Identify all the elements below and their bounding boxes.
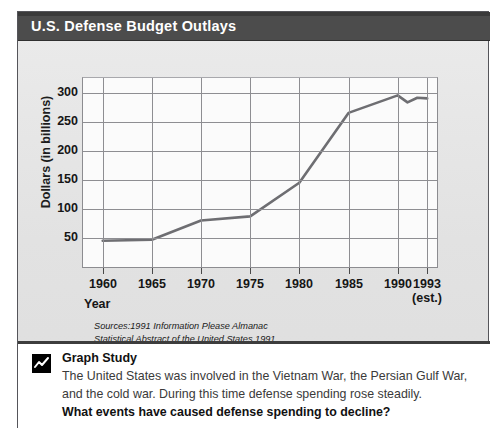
gridline-vertical bbox=[103, 78, 104, 267]
caption-question: What events have caused defense spending… bbox=[62, 405, 474, 419]
caption-body: The United States was involved in the Vi… bbox=[62, 368, 474, 403]
plot-area bbox=[82, 77, 438, 268]
sources-line-1: Sources:1991 Information Please Almanac bbox=[94, 320, 275, 333]
gridline-horizontal bbox=[83, 151, 437, 152]
x-tick-mark bbox=[398, 268, 399, 274]
x-tick-mark bbox=[299, 268, 300, 274]
gridline-vertical bbox=[299, 78, 300, 267]
page-title: U.S. Defense Budget Outlays bbox=[31, 18, 236, 34]
page-root: U.S. Defense Budget Outlays Dollars (in … bbox=[0, 0, 503, 437]
y-tick-label: 100 bbox=[44, 201, 78, 215]
gridline-horizontal bbox=[83, 180, 437, 181]
gridline-vertical bbox=[152, 78, 153, 267]
gridline-horizontal bbox=[83, 93, 437, 94]
graph-study-caption: Graph Study The United States was involv… bbox=[18, 344, 490, 429]
y-tick-label: 50 bbox=[44, 230, 78, 244]
x-tick-mark bbox=[201, 268, 202, 274]
y-tick-label: 300 bbox=[44, 85, 78, 99]
line-chart-icon bbox=[32, 354, 51, 373]
y-axis-tick-labels: 50100150200250300 bbox=[38, 77, 78, 268]
x-tick-mark bbox=[250, 268, 251, 274]
gridline-vertical bbox=[427, 78, 428, 267]
chart-region: Dollars (in billions) 50100150200250300 … bbox=[18, 41, 490, 341]
gridline-vertical bbox=[250, 78, 251, 267]
x-axis-tick-marks bbox=[82, 268, 438, 275]
gridline-horizontal bbox=[83, 238, 437, 239]
caption-heading: Graph Study bbox=[62, 351, 137, 365]
x-tick-mark bbox=[152, 268, 153, 274]
x-axis-title: Year bbox=[84, 297, 110, 311]
gridline-vertical bbox=[398, 78, 399, 267]
x-axis-tick-labels: 19601965197019751980198519901993(est.) bbox=[82, 277, 438, 311]
gridline-vertical bbox=[349, 78, 350, 267]
x-tick-label: 1993(est.) bbox=[397, 277, 457, 305]
graph-card: U.S. Defense Budget Outlays Dollars (in … bbox=[17, 11, 489, 428]
y-tick-label: 200 bbox=[44, 143, 78, 157]
x-tick-mark bbox=[427, 268, 428, 274]
x-tick-mark bbox=[103, 268, 104, 274]
gridline-horizontal bbox=[83, 209, 437, 210]
gridline-vertical bbox=[201, 78, 202, 267]
y-tick-label: 150 bbox=[44, 172, 78, 186]
x-tick-mark bbox=[349, 268, 350, 274]
x-tick-sublabel: (est.) bbox=[397, 291, 457, 305]
y-tick-label: 250 bbox=[44, 114, 78, 128]
chart-title-bar: U.S. Defense Budget Outlays bbox=[18, 12, 490, 41]
gridline-horizontal bbox=[83, 122, 437, 123]
